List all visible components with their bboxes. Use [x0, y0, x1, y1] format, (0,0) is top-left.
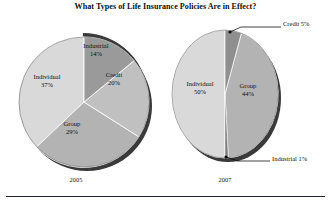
slice-label-individual-2005: Individual 37%: [22, 73, 72, 90]
slice-label-group-2007-name: Group: [240, 82, 257, 89]
slice-label-group-2007: Group 44%: [229, 82, 267, 99]
year-label-2005: 2005: [56, 176, 96, 184]
slice-label-group-2007-value: 44%: [242, 90, 254, 97]
slice-label-individual-2007-value: 50%: [194, 88, 206, 95]
slice-label-group-2005-value: 29%: [66, 128, 78, 135]
slice-label-credit-2005-value: 20%: [108, 79, 120, 86]
chart-figure: What Types of Life Insurance Policies Ar…: [0, 0, 331, 208]
slice-label-credit-2005: Credit 20%: [94, 71, 134, 88]
slice-label-individual-2005-value: 37%: [41, 81, 53, 88]
slice-label-industrial-2005-value: 14%: [90, 50, 102, 57]
callout-label-credit-2007: Credit 5%: [283, 20, 310, 28]
bottom-divider: [6, 196, 325, 197]
slice-label-industrial-2005-name: Industrial: [83, 42, 108, 49]
slice-label-credit-2005-name: Credit: [106, 71, 122, 78]
pie-charts-canvas: [0, 0, 331, 208]
slice-label-individual-2005-name: Individual: [33, 73, 60, 80]
slice-label-industrial-2005: Industrial 14%: [72, 42, 120, 59]
year-label-2007: 2007: [205, 176, 245, 184]
slice-label-group-2005: Group 29%: [52, 120, 92, 137]
callout-label-industrial-2007: Industrial 1%: [272, 155, 307, 163]
slice-label-individual-2007: Individual 50%: [176, 80, 224, 97]
slice-label-individual-2007-name: Individual: [186, 80, 213, 87]
slice-label-group-2005-name: Group: [64, 120, 81, 127]
